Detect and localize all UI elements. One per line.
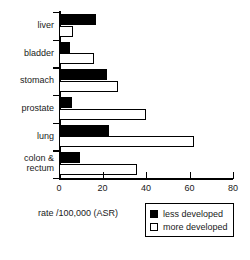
category-label-stomach: stomach <box>0 75 54 85</box>
legend-label-more-developed: more developed <box>163 222 228 232</box>
bar-colon-rectum-more-developed <box>59 164 137 175</box>
bar-colon-rectum-less-developed <box>59 152 80 163</box>
bar-chart: liverbladderstomachprostatelungcolon & r… <box>0 0 250 260</box>
bar-prostate-more-developed <box>59 109 146 120</box>
category-label-lung: lung <box>0 131 54 141</box>
category-label-colon-rectum: colon & rectum <box>0 153 54 173</box>
value-tick <box>103 172 104 179</box>
value-tick-label: 40 <box>131 183 161 194</box>
x-axis-title: rate /100,000 (ASR) <box>38 208 118 219</box>
value-tick <box>190 172 191 179</box>
category-label-prostate: prostate <box>0 103 54 113</box>
bar-stomach-less-developed <box>59 69 107 80</box>
category-label-liver: liver <box>0 20 54 30</box>
value-tick <box>59 172 60 179</box>
legend-swatch-filled-icon <box>150 210 158 218</box>
bar-bladder-more-developed <box>59 53 94 64</box>
bar-bladder-less-developed <box>59 42 70 53</box>
value-tick-label: 0 <box>44 183 74 194</box>
legend-item-more-developed: more developed <box>150 220 228 233</box>
bar-lung-more-developed <box>59 136 194 147</box>
bar-liver-less-developed <box>59 14 96 25</box>
value-tick <box>233 172 234 179</box>
value-tick-label: 60 <box>175 183 205 194</box>
legend: less developed more developed <box>145 203 234 237</box>
value-tick-label: 80 <box>218 183 248 194</box>
value-tick-label: 20 <box>88 183 118 194</box>
legend-swatch-hollow-icon <box>150 223 158 231</box>
category-label-bladder: bladder <box>0 48 54 58</box>
legend-label-less-developed: less developed <box>163 209 223 219</box>
bar-liver-more-developed <box>59 26 73 37</box>
bar-stomach-more-developed <box>59 81 118 92</box>
plot-area <box>59 12 233 178</box>
bar-prostate-less-developed <box>59 97 72 108</box>
value-tick <box>146 172 147 179</box>
bar-lung-less-developed <box>59 125 109 136</box>
legend-item-less-developed: less developed <box>150 207 228 220</box>
